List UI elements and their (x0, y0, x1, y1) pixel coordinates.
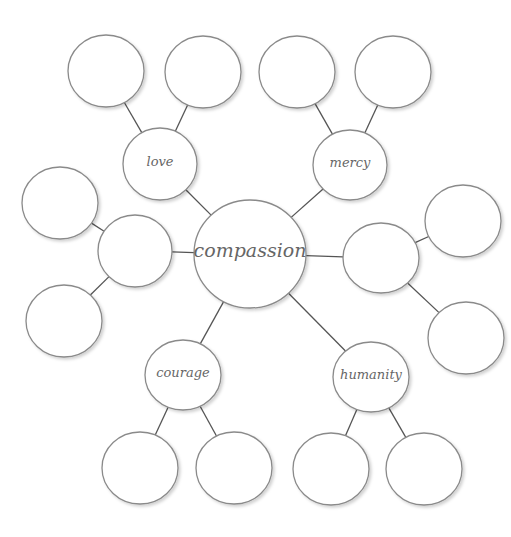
leaf-node-right-1[interactable] (425, 185, 501, 257)
connector-center-love (186, 190, 211, 215)
connector-center-right (306, 256, 343, 257)
connector-center-courage (200, 302, 223, 344)
center-node-compassion[interactable]: compassion (194, 200, 307, 308)
connector-mercy-leaf-2 (365, 105, 378, 133)
leaf-node-mercy-2[interactable] (355, 36, 431, 108)
branch-node-courage-label: courage (156, 365, 210, 380)
connector-right-leaf-1 (415, 236, 429, 242)
branch-node-love-label: love (146, 154, 173, 169)
connector-left-leaf-2 (90, 277, 109, 295)
center-node-compassion-label: compassion (194, 239, 307, 261)
branch-node-left-shape[interactable] (98, 215, 172, 287)
branch-node-left[interactable] (98, 215, 172, 287)
branch-node-mercy[interactable]: mercy (313, 130, 387, 200)
connector-left-leaf-1 (91, 223, 104, 231)
leaf-node-courage-1[interactable] (102, 432, 178, 504)
branch-node-mercy-label: mercy (330, 155, 372, 170)
leaf-node-love-2-shape[interactable] (165, 36, 241, 108)
leaf-node-humanity-1-shape[interactable] (293, 433, 369, 505)
leaf-node-humanity-2-shape[interactable] (386, 433, 462, 505)
connector-courage-leaf-2 (200, 406, 216, 436)
connector-center-left (172, 252, 194, 253)
leaf-node-left-1[interactable] (22, 167, 98, 239)
leaf-node-humanity-1[interactable] (293, 433, 369, 505)
leaf-node-mercy-2-shape[interactable] (355, 36, 431, 108)
leaf-node-love-1-shape[interactable] (68, 35, 144, 107)
connector-mercy-leaf-1 (315, 104, 332, 135)
connector-humanity-leaf-2 (389, 408, 406, 437)
connector-love-leaf-1 (124, 103, 141, 133)
leaf-node-left-2[interactable] (26, 285, 102, 357)
connector-center-mercy (291, 189, 323, 217)
connector-humanity-leaf-1 (345, 409, 356, 435)
leaf-node-courage-1-shape[interactable] (102, 432, 178, 504)
concept-nodes: lovemercycouragehumanitycompassion (22, 35, 504, 505)
leaf-node-mercy-1[interactable] (259, 36, 335, 108)
branch-node-right[interactable] (343, 223, 419, 293)
leaf-node-love-2[interactable] (165, 36, 241, 108)
connector-courage-leaf-1 (155, 407, 168, 435)
branch-node-humanity[interactable]: humanity (333, 342, 409, 412)
leaf-node-humanity-2[interactable] (386, 433, 462, 505)
leaf-node-courage-2-shape[interactable] (196, 432, 272, 504)
leaf-node-right-2[interactable] (428, 302, 504, 374)
connector-love-leaf-2 (175, 105, 187, 131)
connector-center-humanity (289, 293, 346, 351)
branch-node-humanity-label: humanity (340, 367, 403, 382)
branch-node-right-shape[interactable] (343, 223, 419, 293)
leaf-node-love-1[interactable] (68, 35, 144, 107)
branch-node-courage[interactable]: courage (145, 340, 221, 410)
branch-node-love[interactable]: love (123, 128, 197, 200)
leaf-node-right-1-shape[interactable] (425, 185, 501, 257)
connector-right-leaf-2 (408, 283, 439, 313)
leaf-node-left-1-shape[interactable] (22, 167, 98, 239)
leaf-node-mercy-1-shape[interactable] (259, 36, 335, 108)
leaf-node-right-2-shape[interactable] (428, 302, 504, 374)
leaf-node-courage-2[interactable] (196, 432, 272, 504)
concept-web-diagram: lovemercycouragehumanitycompassion (0, 0, 511, 537)
leaf-node-left-2-shape[interactable] (26, 285, 102, 357)
